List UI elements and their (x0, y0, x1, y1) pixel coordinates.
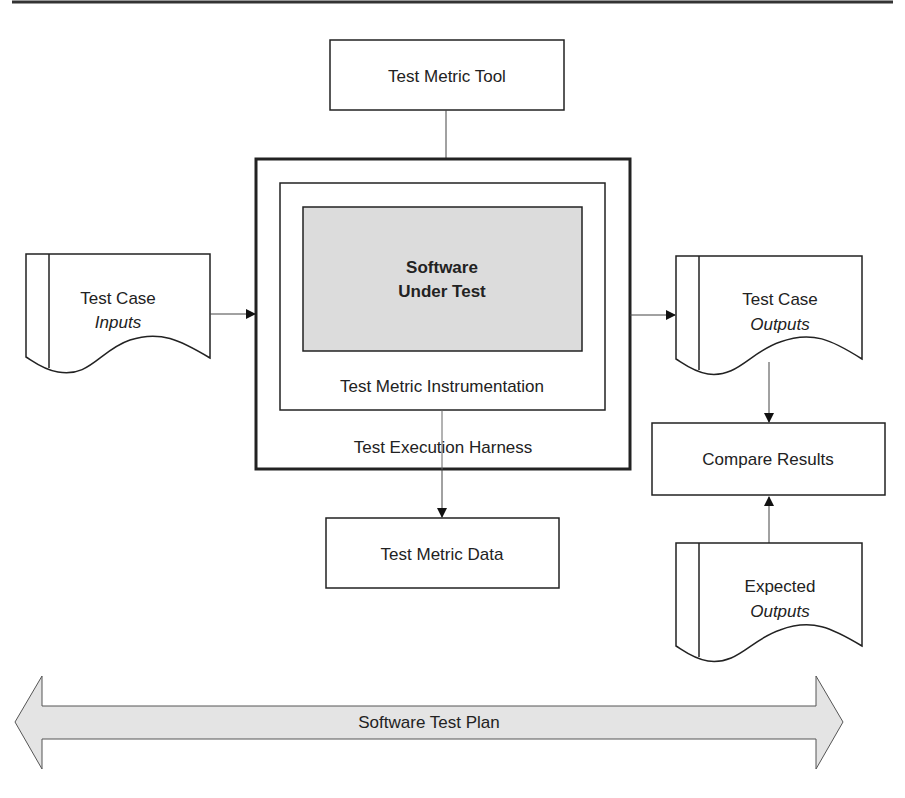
compare-results-label: Compare Results (702, 450, 833, 469)
expected-outputs-line2: Outputs (750, 602, 810, 621)
test-metric-tool-box: Test Metric Tool (330, 40, 564, 110)
software-under-test-line1: Software (406, 258, 478, 277)
software-test-plan-label: Software Test Plan (358, 713, 499, 732)
software-under-test-line2: Under Test (398, 282, 486, 301)
test-case-inputs-line1: Test Case (80, 289, 156, 308)
software-test-plan-arrow: Software Test Plan (15, 676, 843, 769)
diagram-canvas: Test Metric Tool Test Execution Harness … (0, 0, 905, 798)
instrumentation-label: Test Metric Instrumentation (340, 377, 544, 396)
test-case-outputs-document: Test Case Outputs (676, 256, 862, 374)
expected-outputs-line1: Expected (745, 577, 816, 596)
test-case-outputs-line1: Test Case (742, 290, 818, 309)
compare-results-box: Compare Results (652, 423, 885, 495)
test-metric-data-label: Test Metric Data (381, 545, 504, 564)
test-metric-data-box: Test Metric Data (326, 518, 559, 588)
test-metric-tool-label: Test Metric Tool (388, 67, 506, 86)
test-case-outputs-line2: Outputs (750, 315, 810, 334)
test-case-inputs-line2: Inputs (95, 313, 142, 332)
test-case-inputs-document: Test Case Inputs (26, 254, 210, 373)
expected-outputs-document: Expected Outputs (676, 543, 862, 661)
harness-label: Test Execution Harness (354, 438, 533, 457)
software-under-test-box: Software Under Test (303, 207, 582, 351)
